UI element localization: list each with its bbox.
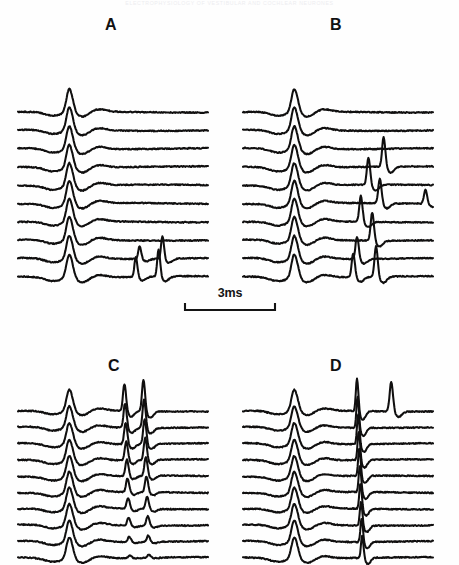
scale-bar-label: 3ms: [170, 286, 290, 300]
panel-b-traces: [243, 86, 443, 276]
panel-label-b: B: [330, 16, 342, 34]
trace-line: [18, 419, 208, 449]
scale-bar-rule: [170, 301, 290, 315]
trace-line: [243, 432, 433, 468]
panel-label-a: A: [105, 16, 117, 34]
trace-line: [243, 89, 433, 117]
trace-line: [243, 484, 433, 516]
trace-line: [18, 380, 208, 418]
trace-line: [243, 397, 433, 436]
panel-d-traces: [243, 383, 443, 558]
trace-line: [243, 414, 433, 452]
trace-line: [243, 449, 433, 483]
trace-line: [18, 249, 208, 282]
figure-plate: ELECTROPHYSIOLOGY OF VESTIBULAR AND COCH…: [0, 0, 459, 565]
trace-line: [243, 137, 433, 173]
panel-c-traces: [18, 383, 218, 558]
trace-line: [243, 246, 433, 283]
trace-line: [18, 89, 208, 117]
trace-line: [243, 158, 433, 191]
trace-line: [243, 379, 433, 420]
trace-line: [243, 179, 433, 209]
trace-line: [18, 438, 208, 466]
trace-line: [243, 502, 433, 532]
panel-label-c: C: [108, 357, 120, 375]
scale-bar: 3ms: [170, 286, 290, 314]
trace-line: [243, 195, 433, 227]
panel-label-d: D: [330, 357, 342, 375]
trace-line: [18, 400, 208, 434]
trace-line: [243, 519, 433, 548]
trace-line: [243, 536, 433, 564]
panel-a-traces: [18, 86, 218, 276]
trace-line: [243, 213, 433, 247]
running-head: ELECTROPHYSIOLOGY OF VESTIBULAR AND COCH…: [0, 0, 459, 7]
trace-line: [243, 466, 433, 499]
